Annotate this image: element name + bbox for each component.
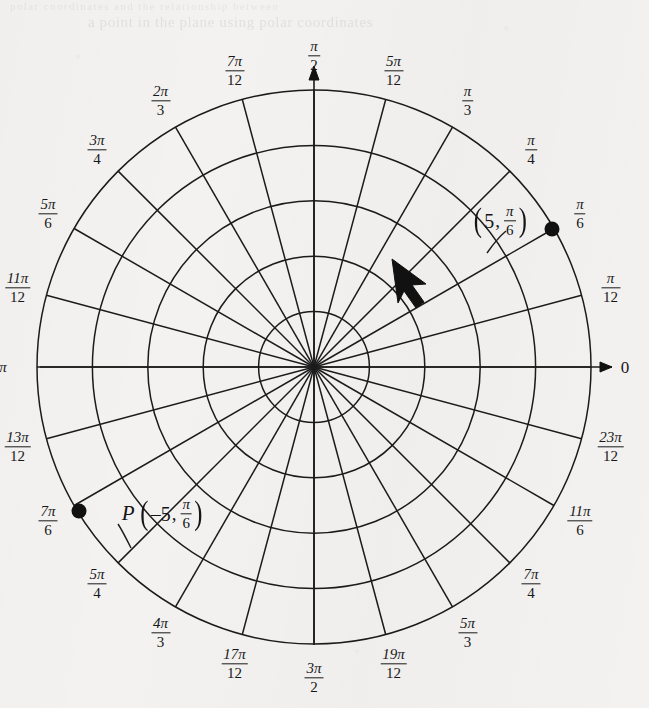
fraction-denominator: 2 (304, 679, 323, 696)
fraction-denominator: 6 (567, 521, 592, 538)
angle-tick-label-105deg: 7π12 (225, 53, 244, 88)
angular-gridline-285deg (314, 367, 386, 635)
fraction-denominator: 12 (221, 664, 248, 681)
close-paren: ) (518, 208, 526, 235)
fraction-denominator: 6 (39, 214, 58, 231)
direction-arrow-group (392, 259, 426, 308)
polar-coordinate-figure: 0π12π6π4π35π12π27π122π33π45π611π12π13π12… (0, 0, 649, 708)
fraction-numerator: 5π (87, 566, 106, 584)
angular-gridline-255deg (242, 367, 314, 635)
angular-gridline-240deg (176, 367, 315, 607)
fraction-denominator: 4 (522, 585, 541, 602)
angular-gridline-105deg (242, 99, 314, 367)
angular-gridline-150deg (74, 229, 314, 368)
fraction-numerator: 3π (87, 132, 106, 150)
angle-tick-label-60deg: π3 (462, 83, 474, 118)
fraction-numerator: 19π (380, 646, 407, 664)
fraction-numerator: 7π (225, 53, 244, 71)
point-dot-5-pi-over-6[interactable] (545, 222, 560, 237)
fraction: 4π3 (151, 615, 170, 650)
direction-arrow-icon (392, 259, 426, 308)
angular-gridline-30deg (314, 229, 554, 368)
angle-tick-label-225deg: 5π4 (87, 566, 106, 601)
angular-gridline-210deg (74, 367, 314, 506)
fraction-numerator: 17π (221, 646, 248, 664)
angle-tick-label-195deg: 13π12 (4, 429, 31, 464)
fraction-numerator: 23π (597, 429, 624, 447)
fraction-numerator: 5π (458, 615, 477, 633)
fraction: π4 (525, 132, 537, 167)
angular-gridline-330deg (314, 367, 554, 506)
fraction: π6 (574, 196, 586, 231)
fraction-numerator: 11π (5, 270, 30, 288)
angular-gridline-300deg (314, 367, 453, 607)
fraction: 5π4 (87, 566, 106, 601)
angle-tick-label-45deg: π4 (525, 132, 537, 167)
fraction: 7π6 (39, 503, 58, 538)
fraction-denominator: 6 (39, 521, 58, 538)
radius-value: –5 (151, 504, 171, 524)
fraction-numerator: 7π (522, 566, 541, 584)
point-dot-P-negative-5-pi-over-6[interactable] (72, 504, 87, 519)
angle-tick-label-345deg: 23π12 (597, 429, 624, 464)
fraction: 17π12 (221, 646, 248, 681)
fraction: 7π4 (522, 566, 541, 601)
angular-gridline-135deg (118, 171, 314, 367)
angle-tick-label-210deg: 7π6 (39, 503, 58, 538)
angle-tick-label-270deg: 3π2 (304, 660, 323, 695)
fraction: 2π3 (151, 83, 170, 118)
angle-tick-label-75deg: 5π12 (384, 53, 403, 88)
fraction-denominator: 12 (4, 447, 31, 464)
fraction: 23π12 (597, 429, 624, 464)
fraction: π2 (308, 38, 320, 73)
angle-tick-label-300deg: 5π3 (458, 615, 477, 650)
angular-gridline-195deg (46, 367, 314, 439)
fraction: 19π12 (380, 646, 407, 681)
fraction-denominator: 3 (151, 633, 170, 650)
angular-gridline-15deg (314, 295, 582, 367)
fraction-denominator: 3 (151, 102, 170, 119)
angular-gridline-165deg (46, 295, 314, 367)
angle-tick-label-285deg: 19π12 (380, 646, 407, 681)
polar-axis-arrowhead-right (600, 362, 612, 372)
fraction-denominator: 4 (525, 150, 537, 167)
theta-numerator: π (181, 496, 193, 514)
fraction-numerator: 5π (39, 196, 58, 214)
fraction-numerator: 4π (151, 615, 170, 633)
angle-tick-label-120deg: 2π3 (151, 83, 170, 118)
fraction-denominator: 12 (225, 71, 244, 88)
fraction-numerator: 13π (4, 429, 31, 447)
open-paren: ( (474, 208, 482, 235)
angle-tick-label-330deg: 11π6 (567, 503, 592, 538)
angle-tick-label-315deg: 7π4 (522, 566, 541, 601)
fraction-denominator: 4 (87, 585, 106, 602)
fraction-denominator: 12 (5, 288, 30, 305)
theta-denominator: 6 (181, 515, 193, 532)
fraction-denominator: 6 (574, 214, 586, 231)
fraction: 5π6 (39, 196, 58, 231)
angle-tick-label-15deg: π12 (601, 270, 620, 305)
fraction: 13π12 (4, 429, 31, 464)
theta-fraction: π6 (181, 496, 193, 531)
fraction-numerator: π (574, 196, 586, 214)
radius-value: 5 (484, 211, 494, 231)
comma: , (495, 212, 500, 231)
tick-text: π (0, 359, 7, 375)
fraction-denominator: 3 (458, 633, 477, 650)
fraction: 11π6 (567, 503, 592, 538)
angular-gridline-225deg (118, 367, 314, 563)
angle-tick-label-240deg: 4π3 (151, 615, 170, 650)
fraction-numerator: 5π (384, 53, 403, 71)
angular-gridline-45deg (314, 171, 510, 367)
fraction-denominator: 12 (384, 71, 403, 88)
fraction-denominator: 4 (87, 150, 106, 167)
angle-tick-label-150deg: 5π6 (39, 196, 58, 231)
fraction: 11π12 (5, 270, 30, 305)
angular-gridline-60deg (314, 127, 453, 367)
theta-fraction: π6 (504, 203, 516, 238)
angle-tick-label-0deg: 0 (621, 359, 630, 376)
fraction-denominator: 3 (462, 102, 474, 119)
fraction: π12 (601, 270, 620, 305)
angle-tick-label-30deg: π6 (574, 196, 586, 231)
angular-gridline-75deg (314, 99, 386, 367)
